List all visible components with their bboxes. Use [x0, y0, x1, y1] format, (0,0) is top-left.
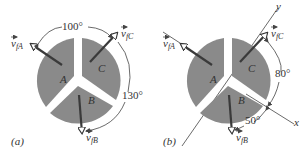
axis-label-y: y	[275, 0, 281, 12]
panel-caption-b: (b)	[163, 135, 176, 148]
panel-caption-a: (a)	[11, 135, 24, 148]
angle-label-100: 100°	[62, 20, 83, 32]
axis-label-x: x	[293, 116, 299, 128]
piece-label-b: B	[88, 94, 95, 106]
disk-a	[37, 38, 121, 124]
svg-text:vfC: vfC	[121, 27, 134, 41]
piece-label-c: C	[248, 62, 256, 74]
piece-label-a: A	[209, 73, 217, 85]
piece-label-c: C	[98, 62, 106, 74]
svg-text:vfC: vfC	[271, 27, 284, 41]
angle-arc-100	[38, 27, 62, 44]
angle-label-50: 50°	[245, 114, 260, 126]
piece-label-b: B	[238, 94, 245, 106]
angle-label-80: 80°	[275, 67, 290, 79]
svg-text:vfA: vfA	[11, 37, 23, 51]
angle-arc-100-right	[88, 27, 112, 38]
vector-label-v-fb: vfB	[236, 131, 248, 145]
vector-label-v-fb: vfB	[86, 131, 98, 145]
svg-text:vfB: vfB	[236, 131, 248, 145]
vector-label-v-fc: vfC	[271, 27, 284, 41]
svg-text:vfB: vfB	[86, 131, 98, 145]
panel-b: A C B 80° 50° y x vfA vfC vfB (b)	[163, 0, 299, 148]
vector-label-v-fc: vfC	[121, 27, 134, 41]
panel-a: A C B 100° 130° vfA vfC vfB (a)	[11, 20, 143, 148]
diagram-canvas: A C B 100° 130° vfA vfC vfB (a)	[0, 0, 305, 154]
disk-b	[187, 38, 271, 124]
angle-arc-50-lower	[235, 126, 244, 130]
angle-label-130: 130°	[122, 89, 143, 101]
vector-label-v-fa: vfA	[11, 37, 23, 51]
piece-label-a: A	[59, 73, 67, 85]
